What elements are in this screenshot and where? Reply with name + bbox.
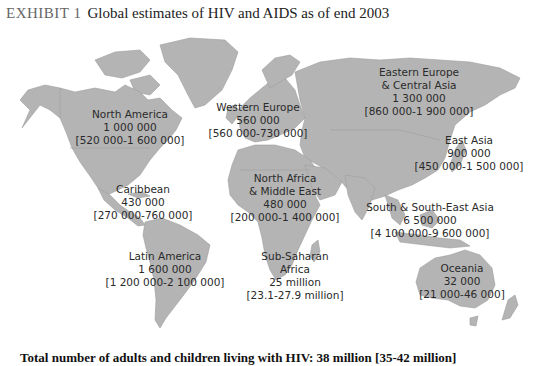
region-name: Eastern Europe <box>365 66 474 79</box>
region-name: South & South-East Asia <box>366 201 494 214</box>
region-range: [520 000-1 600 000] <box>76 134 185 147</box>
region-range: [200 000-1 400 000] <box>231 211 340 224</box>
region-range: [23.1-27.9 million] <box>246 289 343 302</box>
region-name: Western Europe <box>209 101 308 114</box>
region-estimate: 1 600 000 <box>106 263 225 276</box>
region-label-north-africa-middle-east: North Africa & Middle East 480 000 [200 … <box>231 172 340 224</box>
greenland-shape <box>160 38 238 108</box>
region-estimate: 1 300 000 <box>365 92 474 105</box>
region-label-south-southeast-asia: South & South-East Asia 6 500 000 [4 100… <box>366 201 494 240</box>
region-label-east-asia: East Asia 900 000 [450 000-1 500 000] <box>415 134 524 173</box>
region-label-latin-america: Latin America 1 600 000 [1 200 000-2 100… <box>106 250 225 289</box>
region-estimate: 560 000 <box>209 114 308 127</box>
region-name-line2: & Central Asia <box>365 79 474 92</box>
arctic-islands-shape <box>95 50 150 78</box>
region-range: [860 000-1 900 000] <box>365 105 474 118</box>
region-name-line2: & Middle East <box>231 185 340 198</box>
region-estimate: 480 000 <box>231 198 340 211</box>
region-range: [270 000-760 000] <box>94 209 193 222</box>
region-range: [4 100 000-9 600 000] <box>366 227 494 240</box>
region-name: Caribbean <box>94 183 193 196</box>
exhibit-title: EXHIBIT 1Global estimates of HIV and AID… <box>6 5 389 22</box>
region-label-north-america: North America 1 000 000 [520 000-1 600 0… <box>76 108 185 147</box>
region-label-sub-saharan-africa: Sub-Saharan Africa 25 million [23.1-27.9… <box>246 250 343 302</box>
region-name-line2: Africa <box>246 263 343 276</box>
region-name: Oceania <box>419 262 504 275</box>
region-range: [21 000-46 000] <box>419 288 504 301</box>
region-label-eastern-europe-central-asia: Eastern Europe & Central Asia 1 300 000 … <box>365 66 474 118</box>
region-name: North Africa <box>231 172 340 185</box>
region-estimate: 1 000 000 <box>76 121 185 134</box>
region-estimate: 25 million <box>246 276 343 289</box>
region-range: [450 000-1 500 000] <box>415 160 524 173</box>
exhibit-title-text: Global estimates of HIV and AIDS as of e… <box>87 5 389 21</box>
region-label-caribbean: Caribbean 430 000 [270 000-760 000] <box>94 183 193 222</box>
exhibit-number: EXHIBIT 1 <box>6 5 81 21</box>
region-estimate: 6 500 000 <box>366 214 494 227</box>
region-estimate: 430 000 <box>94 196 193 209</box>
region-name: Latin America <box>106 250 225 263</box>
region-name: East Asia <box>415 134 524 147</box>
region-estimate: 900 000 <box>415 147 524 160</box>
region-name: Sub-Saharan <box>246 250 343 263</box>
region-label-western-europe: Western Europe 560 000 [560 000-730 000] <box>209 101 308 140</box>
region-range: [1 200 000-2 100 000] <box>106 276 225 289</box>
region-name: North America <box>76 108 185 121</box>
region-label-oceania: Oceania 32 000 [21 000-46 000] <box>419 262 504 301</box>
total-summary: Total number of adults and children livi… <box>20 350 456 366</box>
region-estimate: 32 000 <box>419 275 504 288</box>
region-range: [560 000-730 000] <box>209 127 308 140</box>
